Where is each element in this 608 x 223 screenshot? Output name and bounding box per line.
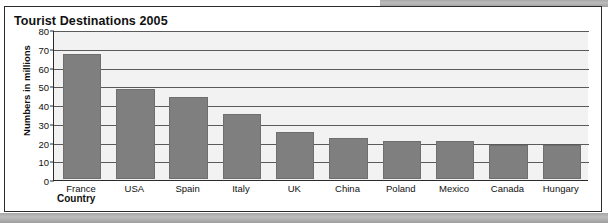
plot-area-wrapper: 01020304050607080 FranceUSASpainItalyUKC… <box>53 31 588 188</box>
x-axis-tick-label: UK <box>268 183 321 194</box>
chart-title: Tourist Destinations 2005 <box>14 14 168 28</box>
y-axis-tick-mark <box>50 68 54 69</box>
x-axis-tick-label: China <box>321 183 374 194</box>
y-axis-tick-label: 70 <box>38 44 49 55</box>
bar-slot <box>55 30 108 179</box>
y-axis-tick-label: 60 <box>38 63 49 74</box>
y-axis-tick-label: 30 <box>38 119 49 130</box>
bar <box>543 145 581 178</box>
bar-slot <box>482 30 535 179</box>
y-axis-tick-mark <box>50 162 54 163</box>
scan-edge-band-bottom <box>0 213 608 223</box>
bar <box>276 132 314 178</box>
x-axis-tick-label: Spain <box>161 183 214 194</box>
x-axis-title: Country <box>57 193 95 204</box>
bar <box>489 145 527 178</box>
y-axis-tick-mark <box>50 87 54 88</box>
bar-slot <box>375 30 428 179</box>
x-axis-tick-label: Hungary <box>534 183 587 194</box>
y-axis-tick-label: 10 <box>38 157 49 168</box>
bar-slot <box>109 30 162 179</box>
y-axis-tick-mark <box>50 31 54 32</box>
bar-slot <box>322 30 375 179</box>
y-axis-tick-label: 80 <box>38 26 49 37</box>
bar <box>223 114 261 179</box>
bar <box>116 89 154 178</box>
y-axis-tick-label: 40 <box>38 101 49 112</box>
bar-slot <box>428 30 481 179</box>
x-axis-tick-label: Italy <box>214 183 267 194</box>
bar-slot <box>535 30 588 179</box>
y-axis-tick-mark <box>50 124 54 125</box>
chart-figure: Tourist Destinations 2005 Numbers in mil… <box>4 6 602 212</box>
bar-series <box>55 30 588 179</box>
y-axis-tick-mark <box>50 143 54 144</box>
y-axis-tick-label: 50 <box>38 82 49 93</box>
bar <box>436 141 474 178</box>
y-axis-tick-mark <box>50 106 54 107</box>
x-axis-tick-labels: FranceUSASpainItalyUKChinaPolandMexicoCa… <box>54 183 587 194</box>
bar <box>383 141 421 178</box>
y-axis-tick-mark <box>50 49 54 50</box>
bar <box>63 54 101 178</box>
x-axis-tick-label: Poland <box>374 183 427 194</box>
bar-slot <box>162 30 215 179</box>
y-axis-tick-label: 0 <box>44 176 49 187</box>
plot-area: 01020304050607080 <box>53 31 588 181</box>
bar-slot <box>215 30 268 179</box>
x-axis-tick-label: USA <box>108 183 161 194</box>
bar <box>329 138 367 179</box>
y-axis-tick-label: 20 <box>38 138 49 149</box>
x-axis-tick-label: Mexico <box>427 183 480 194</box>
x-axis-tick-label: Canada <box>481 183 534 194</box>
y-axis-tick-mark <box>50 181 54 182</box>
scanned-page: Tourist Destinations 2005 Numbers in mil… <box>0 0 608 223</box>
bar-slot <box>269 30 322 179</box>
bar <box>169 97 207 179</box>
y-axis-title: Numbers in millions <box>21 26 32 156</box>
